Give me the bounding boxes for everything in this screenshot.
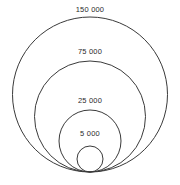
- circles-canvas: [0, 0, 180, 185]
- circle-150000: [13, 17, 168, 172]
- bubble-scale-diagram: 150 000 75 000 25 000 5 000: [0, 0, 180, 185]
- circle-5000: [77, 146, 103, 172]
- circle-25000: [59, 110, 121, 172]
- circle-75000: [35, 61, 146, 172]
- circle-label-25000: 25 000: [0, 96, 180, 105]
- circle-label-150000: 150 000: [0, 5, 180, 14]
- circle-label-75000: 75 000: [0, 47, 180, 56]
- circle-label-5000: 5 000: [0, 129, 180, 138]
